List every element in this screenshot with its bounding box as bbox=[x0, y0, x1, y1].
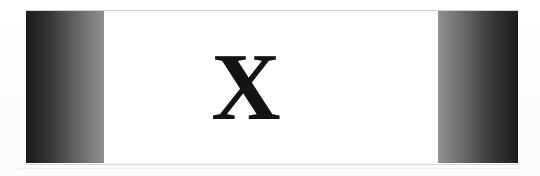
scanned-page: X bbox=[0, 0, 540, 176]
banner-bottom-rule bbox=[26, 164, 518, 165]
left-gradient-band bbox=[26, 11, 104, 163]
banner-strip: X bbox=[26, 11, 518, 163]
banner-bottom-rule-secondary bbox=[20, 168, 520, 169]
right-gradient-band bbox=[438, 11, 518, 163]
banner-center-panel bbox=[104, 11, 438, 163]
